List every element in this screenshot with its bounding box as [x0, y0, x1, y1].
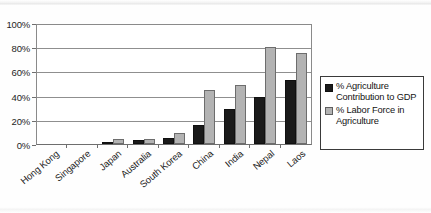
bar — [296, 53, 307, 144]
x-axis-tick-label: India — [223, 148, 245, 169]
bar — [102, 142, 113, 144]
bar-group — [37, 25, 311, 144]
bar — [193, 125, 204, 144]
bar — [285, 80, 296, 144]
bar — [133, 140, 144, 144]
scan-artifact-bottom — [0, 207, 431, 213]
chart-legend: % Agriculture Contribution to GDP % Labo… — [320, 76, 424, 150]
bar — [204, 90, 215, 144]
bar — [144, 139, 155, 144]
bar — [265, 47, 276, 144]
bar-category-group — [128, 25, 158, 144]
bar — [113, 139, 124, 144]
bar-category-group — [159, 25, 189, 144]
bar — [254, 97, 265, 144]
y-axis: 0%20%40%60%80%100% — [0, 24, 36, 145]
y-axis-tick-label: 20% — [12, 115, 30, 126]
y-axis-tick-label: 60% — [12, 67, 30, 78]
black-swatch-icon — [325, 84, 333, 92]
x-axis-tick-label: Hong Kong — [18, 148, 61, 187]
bar-category-group — [250, 25, 280, 144]
bar-category-group — [281, 25, 311, 144]
bar-chart: 0%20%40%60%80%100% Hong KongSingaporeJap… — [0, 0, 431, 213]
x-axis-tick-label: Nepal — [251, 148, 276, 172]
bar — [235, 85, 246, 144]
bar — [163, 138, 174, 144]
legend-label-agriculture-gdp: % Agriculture Contribution to GDP — [336, 81, 420, 104]
scan-artifact-top — [0, 0, 431, 5]
x-axis-tick-label: Laos — [284, 148, 306, 169]
x-axis-tick-label: China — [189, 148, 214, 172]
bar — [174, 133, 185, 144]
bar-category-group — [98, 25, 128, 144]
bar-category-group — [220, 25, 250, 144]
y-axis-tick-label: 40% — [12, 91, 30, 102]
legend-label-labor-force: % Labor Force in Agriculture — [336, 105, 420, 128]
y-axis-tick-label: 0% — [17, 140, 30, 151]
gray-swatch-icon — [325, 107, 333, 115]
bar-category-group — [67, 25, 97, 144]
x-axis: Hong KongSingaporeJapanAustraliaSouth Ko… — [36, 146, 312, 206]
legend-item-agriculture-gdp: % Agriculture Contribution to GDP — [325, 81, 420, 104]
legend-item-labor-force: % Labor Force in Agriculture — [325, 105, 420, 128]
bar-category-group — [37, 25, 67, 144]
y-axis-tick-label: 100% — [7, 19, 31, 30]
y-axis-tick-label: 80% — [12, 43, 30, 54]
plot-area — [36, 24, 312, 145]
x-axis-tick-label: Japan — [97, 148, 123, 172]
bar — [224, 109, 235, 144]
bar-category-group — [189, 25, 219, 144]
